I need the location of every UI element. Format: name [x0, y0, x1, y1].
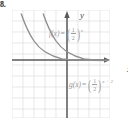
left-paren-icon: ( [67, 30, 70, 38]
axis-label-y: y [80, 10, 84, 20]
function-label-f-name: f(x) [49, 30, 59, 38]
function-label-f-equals: = [60, 30, 64, 38]
fraction-numerator: 1 [71, 27, 76, 33]
fraction-denominator: 2 [71, 35, 76, 41]
exponential-functions-figure: 8. [0, 0, 128, 127]
axis-label-x: x [127, 64, 128, 74]
function-label-g-name: g(x) [69, 81, 81, 89]
function-label-f: f(x) = ( 1 2 ) x [49, 27, 83, 41]
plot-area: y x f(x) = ( 1 2 ) x g(x) = ( 1 2 [12, 10, 110, 118]
function-label-g-equals: = [82, 81, 86, 89]
fraction-denominator: 2 [92, 86, 97, 92]
function-label-g-exponent: x + 2 [102, 79, 113, 84]
left-paren-icon: ( [88, 81, 91, 89]
fraction-one-half-f: 1 2 [71, 27, 76, 41]
right-paren-icon: ) [98, 81, 101, 89]
function-label-g: g(x) = ( 1 2 ) x + 2 [69, 78, 113, 92]
function-label-f-exponent: x [81, 28, 83, 33]
fraction-one-half-g: 1 2 [92, 78, 97, 92]
right-paren-icon: ) [77, 30, 80, 38]
problem-number: 8. [0, 0, 5, 9]
fraction-numerator: 1 [92, 78, 97, 84]
